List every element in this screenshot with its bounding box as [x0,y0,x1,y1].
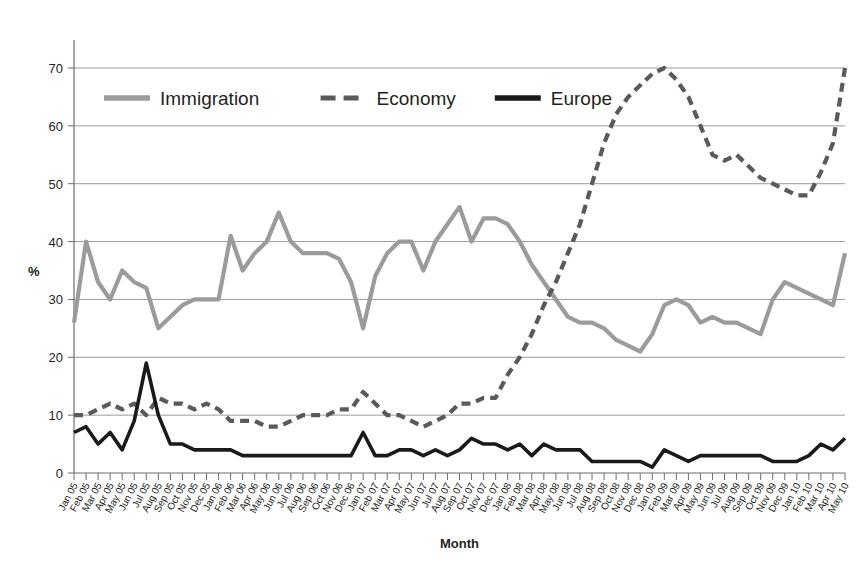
legend-label-europe: Europe [551,88,612,109]
y-tick-label: 70 [49,61,63,76]
x-axis-title: Month [440,536,479,551]
y-tick-label: 30 [49,292,63,307]
y-tick-label: 10 [49,408,63,423]
y-tick-label: 50 [49,177,63,192]
y-tick-label: 0 [56,466,63,481]
line-chart: 010203040506070 Jan 05Feb 05Mar 05Apr 05… [0,0,863,577]
y-tick-label: 40 [49,235,63,250]
chart-container: 010203040506070 Jan 05Feb 05Mar 05Apr 05… [0,0,863,577]
y-tick-label: 20 [49,350,63,365]
legend-label-immigration: Immigration [160,88,259,109]
y-axis-title: % [28,264,40,279]
legend-label-economy: Economy [377,88,457,109]
y-tick-label: 60 [49,119,63,134]
